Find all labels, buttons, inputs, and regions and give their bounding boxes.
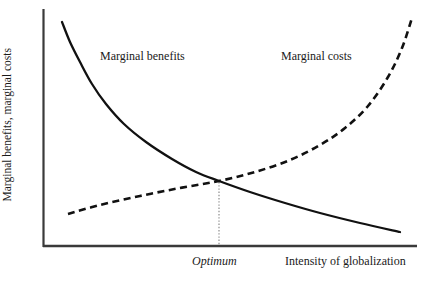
chart-plot-area	[0, 0, 426, 282]
marginal-benefits-label: Marginal benefits	[100, 50, 185, 62]
chart-figure: Marginal benefits, marginal costs Margin…	[0, 0, 426, 282]
curve-marginal-costs	[68, 18, 412, 214]
optimum-label: Optimum	[192, 255, 237, 267]
y-axis-title: Marginal benefits, marginal costs	[0, 0, 16, 250]
marginal-costs-label: Marginal costs	[281, 50, 352, 62]
y-axis-title-text: Marginal benefits, marginal costs	[2, 48, 14, 202]
x-axis-title: Intensity of globalization	[285, 255, 406, 267]
